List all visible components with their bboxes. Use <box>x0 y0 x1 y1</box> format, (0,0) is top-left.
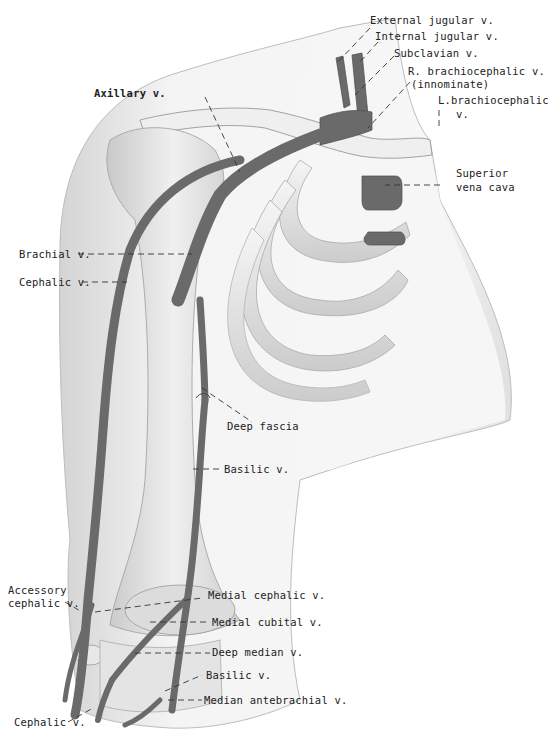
label-r-brachiocephalic-innominate: (innominate) <box>411 78 489 90</box>
label-deep-median-vein: Deep median v. <box>212 646 303 658</box>
label-internal-jugular-vein: Internal jugular v. <box>375 30 499 42</box>
label-external-jugular-vein: External jugular v. <box>370 14 494 26</box>
label-cephalic-vein-upper: Cephalic v. <box>19 276 91 288</box>
label-r-brachiocephalic-vein: R. brachiocephalic v. <box>408 65 545 77</box>
label-l-brachiocephalic-vein: L.brachiocephalic <box>438 94 549 106</box>
label-medial-cubital-vein: Medial cubital v. <box>212 616 323 628</box>
label-superior-vena-cava-2: vena cava <box>456 181 515 193</box>
label-l-brachiocephalic-v: v. <box>456 108 469 120</box>
label-basilic-vein-upper: Basilic v. <box>224 463 289 475</box>
label-medial-cephalic-vein: Medial cephalic v. <box>208 589 325 601</box>
label-accessory-cephalic-2: cephalic v. <box>8 597 80 609</box>
label-superior-vena-cava-1: Superior <box>456 167 508 179</box>
cropped-caption <box>0 726 552 734</box>
label-median-antebrachial-vein: Median antebrachial v. <box>204 694 347 706</box>
label-axillary-vein: Axillary v. <box>94 87 166 99</box>
label-accessory-cephalic-1: Accessory <box>8 584 67 596</box>
label-deep-fascia: Deep fascia <box>227 420 299 432</box>
label-brachial-vein: Brachial v. <box>19 248 91 260</box>
label-basilic-vein-lower: Basilic v. <box>206 669 271 681</box>
label-subclavian-vein: Subclavian v. <box>394 47 479 59</box>
